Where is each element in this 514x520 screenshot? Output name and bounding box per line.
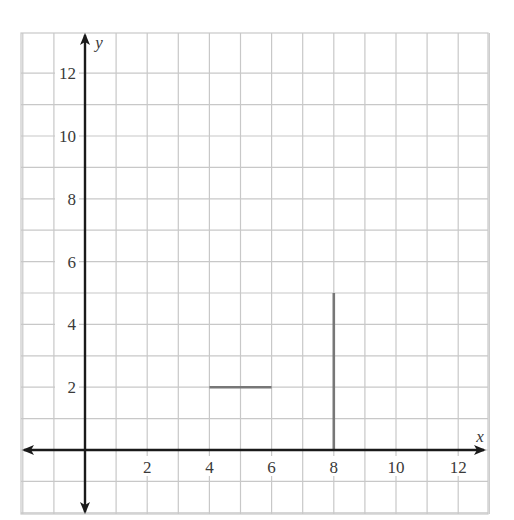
x-tick-label: 10 xyxy=(388,458,405,477)
coordinate-plane: 2468101224681012xy xyxy=(0,0,514,520)
y-tick-label: 4 xyxy=(68,315,77,334)
y-tick-label: 8 xyxy=(68,190,77,209)
x-tick-label: 12 xyxy=(450,458,467,477)
y-tick-label: 10 xyxy=(59,127,76,146)
y-tick-label: 12 xyxy=(59,64,76,83)
x-tick-label: 4 xyxy=(205,458,214,477)
grid-lines xyxy=(21,33,489,514)
tick-labels: 2468101224681012xy xyxy=(55,33,484,477)
x-axis-label: x xyxy=(475,427,484,446)
y-tick-label: 2 xyxy=(68,378,77,397)
x-tick-label: 6 xyxy=(267,458,276,477)
y-tick-label: 6 xyxy=(68,253,77,272)
x-tick-label: 2 xyxy=(143,458,152,477)
y-axis-label: y xyxy=(93,33,103,52)
x-tick-label: 8 xyxy=(330,458,339,477)
axes xyxy=(24,35,484,512)
